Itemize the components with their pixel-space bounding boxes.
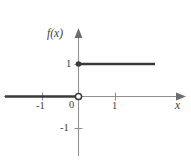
y-tick-label-minus1: -1 (60, 123, 69, 134)
x-axis-label: x (175, 100, 180, 112)
y-axis-arrow-icon (75, 28, 83, 38)
graph-figure: f(x) x 1 -1 0 -1 1 (0, 0, 191, 164)
graph-canvas (0, 0, 191, 164)
origin-label: 0 (69, 100, 74, 111)
x-tick-label-1: 1 (112, 101, 117, 112)
y-axis-label: f(x) (47, 28, 63, 40)
y-tick-label-1: 1 (66, 59, 71, 70)
x-tick-label-minus1: -1 (36, 101, 45, 112)
endpoint-open-circle (75, 93, 81, 99)
endpoint-filled-dot (76, 61, 82, 67)
